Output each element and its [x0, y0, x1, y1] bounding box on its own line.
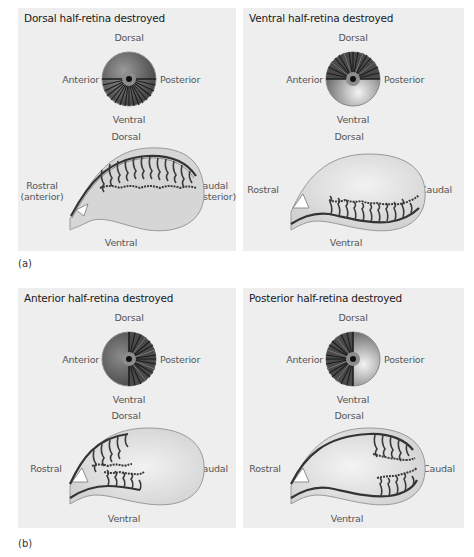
eye-label-ventral: Ventral [337, 114, 369, 125]
eye-label-anterior: Anterior [62, 74, 99, 85]
tectum-label-rostral: Rostral [249, 463, 281, 474]
eye-label-anterior: Anterior [286, 354, 323, 365]
eye-label-posterior: Posterior [384, 354, 424, 365]
panel-title: Dorsal half-retina destroyed [24, 12, 165, 24]
eye-label-dorsal: Dorsal [338, 312, 367, 323]
tectum-label-ventral: Ventral [108, 513, 140, 524]
part-label-b: (b) [18, 538, 32, 549]
eye-label-posterior: Posterior [160, 74, 200, 85]
eye-label-posterior: Posterior [160, 354, 200, 365]
eye-icon [325, 331, 381, 387]
eye-icon [101, 51, 157, 107]
eye-label-dorsal: Dorsal [114, 32, 143, 43]
eye-label-anterior: Anterior [62, 354, 99, 365]
tectum-label-dorsal: Dorsal [111, 131, 140, 142]
tectum-diagram [68, 424, 208, 510]
tectum-diagram [289, 424, 429, 510]
eye-icon [325, 51, 381, 107]
tectum-label-ventral: Ventral [331, 513, 363, 524]
panel-title: Ventral half-retina destroyed [249, 12, 393, 24]
panel-title: Posterior half-retina destroyed [249, 292, 402, 304]
eye-label-posterior: Posterior [384, 74, 424, 85]
part-label-a: (a) [18, 258, 32, 269]
tectum-label-ventral: Ventral [330, 237, 362, 248]
tectum-label-dorsal: Dorsal [334, 410, 363, 421]
tectum-label-rostral-sub: (anterior) [20, 191, 63, 202]
eye-label-anterior: Anterior [286, 74, 323, 85]
tectum-diagram [289, 150, 429, 236]
tectum-label-rostral: Rostral [247, 184, 279, 195]
eye-label-ventral: Ventral [113, 114, 145, 125]
eye-icon [101, 331, 157, 387]
panel-dorsal-destroyed: Dorsal half-retina destroyed Dorsal Ante… [18, 8, 236, 251]
eye-label-ventral: Ventral [337, 394, 369, 405]
eye-label-dorsal: Dorsal [114, 312, 143, 323]
eye-label-dorsal: Dorsal [338, 32, 367, 43]
tectum-label-dorsal: Dorsal [334, 131, 363, 142]
tectum-label-rostral: Rostral [30, 463, 62, 474]
tectum-label-rostral: Rostral [26, 180, 58, 191]
panel-title: Anterior half-retina destroyed [24, 292, 173, 304]
tectum-label-dorsal: Dorsal [111, 410, 140, 421]
panel-ventral-destroyed: Ventral half-retina destroyed Dorsal Ant… [243, 8, 464, 251]
tectum-label-ventral: Ventral [105, 237, 137, 248]
eye-label-ventral: Ventral [113, 394, 145, 405]
panel-posterior-destroyed: Posterior half-retina destroyed Dorsal A… [243, 288, 464, 528]
tectum-diagram [68, 144, 208, 236]
panel-anterior-destroyed: Anterior half-retina destroyed Dorsal An… [18, 288, 236, 528]
